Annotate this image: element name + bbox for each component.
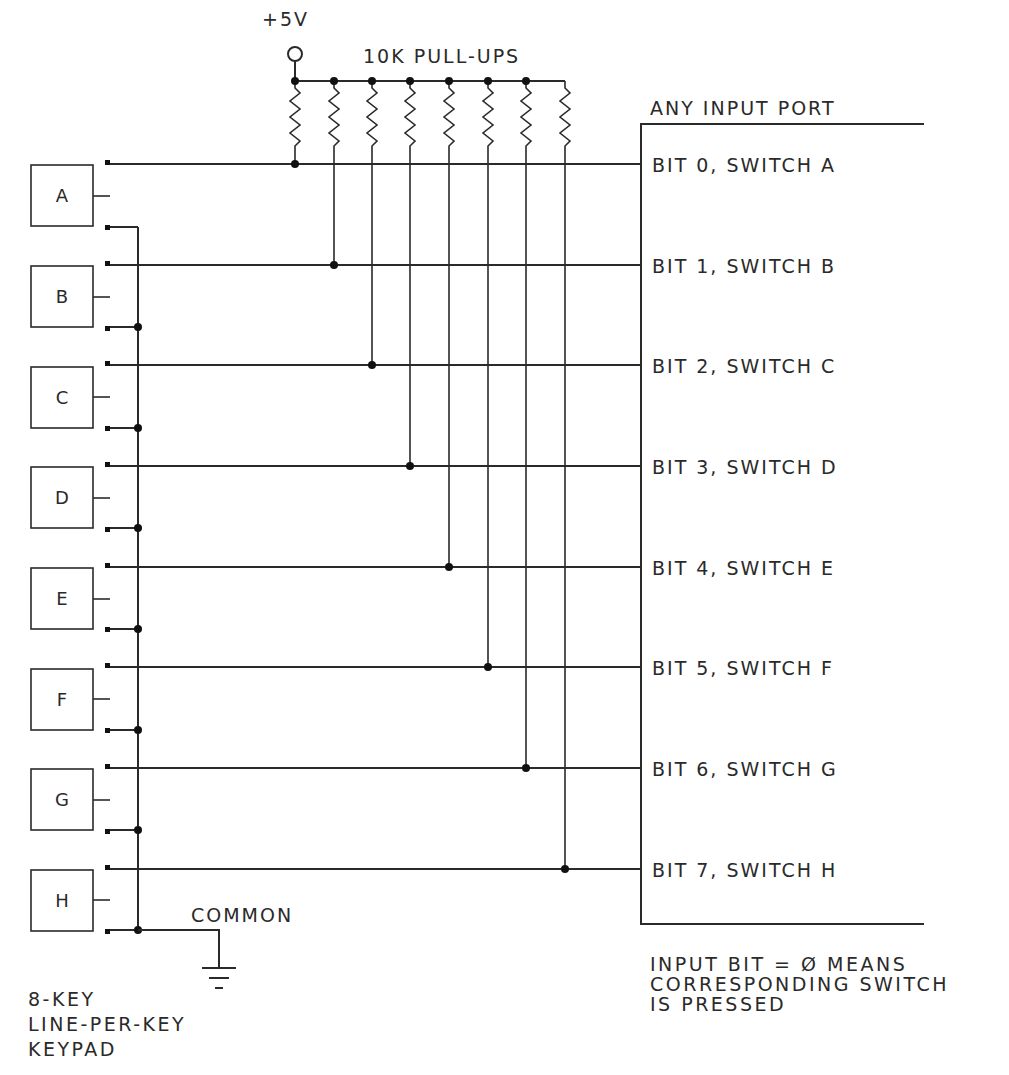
bit1-label: BIT 1, SWITCH B (652, 255, 836, 277)
pullups-label: 10K PULL-UPS (363, 45, 520, 67)
svg-text:F: F (57, 689, 67, 710)
svg-text:IS PRESSED: IS PRESSED (650, 993, 786, 1015)
keypad-caption: 8-KEY LINE-PER-KEY KEYPAD (28, 988, 186, 1060)
resistor-icon (405, 81, 415, 466)
bit7-label: BIT 7, SWITCH H (652, 859, 837, 881)
svg-text:B: B (56, 286, 68, 307)
svg-text:INPUT BIT = Ø MEANS: INPUT BIT = Ø MEANS (650, 953, 907, 975)
svg-text:KEYPAD: KEYPAD (28, 1038, 117, 1060)
svg-text:8-KEY: 8-KEY (28, 988, 96, 1010)
key-row-c: C BIT 2, SWITCH C (31, 355, 836, 432)
pullup-resistors (290, 77, 570, 869)
key-row-h: H BIT 7, SWITCH H (31, 859, 837, 934)
resistor-icon (367, 81, 377, 365)
common-label: COMMON (191, 904, 293, 926)
ground-icon (202, 968, 236, 988)
resistor-icon (329, 81, 339, 265)
keypad-schematic: +5V 10K PULL-UPS (0, 0, 1009, 1075)
resistor-icon (560, 81, 570, 869)
resistor-icon (483, 81, 493, 667)
key-row-b: B BIT 1, SWITCH B (31, 255, 836, 331)
bit4-label: BIT 4, SWITCH E (652, 557, 835, 579)
resistor-icon (290, 81, 300, 164)
svg-text:LINE-PER-KEY: LINE-PER-KEY (28, 1013, 186, 1035)
key-row-a: A BIT 0, SWITCH A (31, 154, 836, 230)
input-port: ANY INPUT PORT (641, 97, 924, 924)
key-row-g: G BIT 6, SWITCH G (31, 758, 838, 834)
resistor-icon (444, 81, 454, 567)
svg-text:G: G (55, 789, 69, 810)
supply-label: +5V (262, 8, 309, 30)
bit6-label: BIT 6, SWITCH G (652, 758, 838, 780)
key-row-f: F BIT 5, SWITCH F (31, 657, 834, 734)
key-row-d: D BIT 3, SWITCH D (31, 456, 838, 532)
svg-text:CORRESPONDING SWITCH: CORRESPONDING SWITCH (650, 973, 949, 995)
port-label: ANY INPUT PORT (650, 97, 836, 119)
svg-text:D: D (55, 487, 69, 508)
svg-text:H: H (55, 890, 69, 911)
supply-circle-icon (288, 47, 302, 61)
svg-text:E: E (56, 588, 67, 609)
supply-terminal: +5V (262, 8, 309, 81)
common-ground: COMMON (138, 904, 293, 988)
svg-text:A: A (56, 185, 69, 206)
svg-text:C: C (56, 387, 69, 408)
bit5-label: BIT 5, SWITCH F (652, 657, 834, 679)
bit2-label: BIT 2, SWITCH C (652, 355, 836, 377)
input-note: INPUT BIT = Ø MEANS CORRESPONDING SWITCH… (650, 953, 949, 1015)
resistor-icon (521, 81, 531, 768)
bit0-label: BIT 0, SWITCH A (652, 154, 836, 176)
bit3-label: BIT 3, SWITCH D (652, 456, 838, 478)
key-row-e: E BIT 4, SWITCH E (31, 557, 835, 633)
